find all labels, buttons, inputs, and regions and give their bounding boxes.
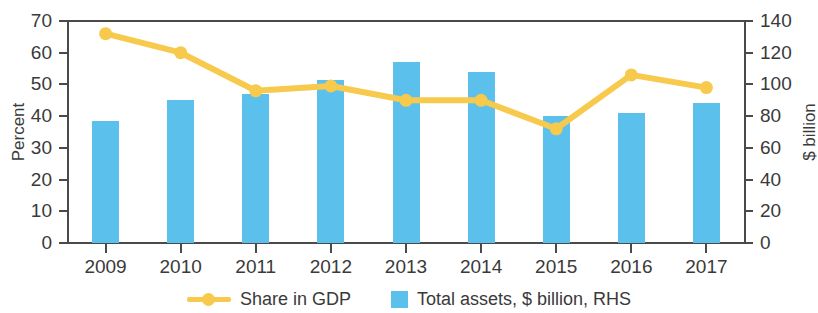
y-axis-right-tick-label: 120	[760, 43, 792, 62]
y-axis-right-tick-mark	[744, 52, 753, 54]
y-axis-right-tick-label: 140	[760, 11, 792, 30]
y-axis-left-tick-mark	[59, 83, 68, 85]
x-axis-tick-label: 2013	[371, 256, 441, 278]
line-marker-2010	[174, 46, 187, 59]
line-marker-2012	[324, 80, 337, 93]
y-axis-left-tick-mark	[59, 242, 68, 244]
y-axis-left-ticks: 706050403020100	[0, 0, 52, 313]
legend-item-share-in-gdp[interactable]: Share in GDP	[187, 289, 351, 310]
line-marker-2009	[99, 27, 112, 40]
y-axis-right-tick-label: 60	[760, 138, 781, 157]
x-axis-tick-label: 2016	[596, 256, 666, 278]
x-axis-tick-mark	[630, 244, 632, 253]
y-axis-left-tick-label: 30	[4, 138, 52, 157]
y-axis-left-tick-label: 50	[4, 74, 52, 93]
y-axis-right-tick-label: 80	[760, 106, 781, 125]
x-axis-tick-label: 2014	[446, 256, 516, 278]
x-axis-tick-label: 2012	[296, 256, 366, 278]
x-axis-tick-mark	[180, 244, 182, 253]
y-axis-right-tick-label: 20	[760, 201, 781, 220]
plot-area	[68, 21, 744, 243]
y-axis-right-tick-mark	[744, 147, 753, 149]
legend-label-share-in-gdp: Share in GDP	[240, 289, 351, 310]
y-axis-left-tick-label: 10	[4, 201, 52, 220]
line-series	[68, 21, 744, 243]
square-marker-icon	[391, 291, 408, 308]
x-axis-tick-label: 2009	[71, 256, 141, 278]
x-axis-tick-label: 2015	[521, 256, 591, 278]
x-axis-labels: 200920102011201220132014201520162017	[68, 256, 744, 282]
y-axis-left-tick-mark	[59, 179, 68, 181]
line-marker-2011	[249, 84, 262, 97]
y-axis-left-tick-mark	[59, 52, 68, 54]
y-axis-right-tick-label: 0	[760, 233, 771, 252]
line-marker-icon	[187, 291, 231, 307]
y-axis-right-ticks: 140120100806040200	[760, 0, 818, 313]
y-axis-left-tick-mark	[59, 210, 68, 212]
y-axis-left-tick-label: 20	[4, 170, 52, 189]
y-axis-left-tick-mark	[59, 20, 68, 22]
y-axis-left-tick-mark	[59, 147, 68, 149]
y-axis-right-tick-mark	[744, 115, 753, 117]
y-axis-right-tick-mark	[744, 83, 753, 85]
y-axis-right-tick-mark	[744, 20, 753, 22]
legend-item-total-assets[interactable]: Total assets, $ billion, RHS	[391, 289, 631, 310]
line-marker-2014	[475, 94, 488, 107]
y-axis-left-tick-label: 60	[4, 43, 52, 62]
line-marker-2013	[400, 94, 413, 107]
x-axis-tick-label: 2017	[671, 256, 741, 278]
x-axis-tick-label: 2011	[221, 256, 291, 278]
x-axis-tick-mark	[255, 244, 257, 253]
x-axis-tick-mark	[105, 244, 107, 253]
x-axis-tick-mark	[705, 244, 707, 253]
line-marker-2017	[700, 81, 713, 94]
y-axis-left-tick-label: 0	[4, 233, 52, 252]
chart-container: Percent $ billion 706050403020100 140120…	[0, 0, 818, 313]
y-axis-left-tick-mark	[59, 115, 68, 117]
line-marker-2015	[550, 122, 563, 135]
legend-label-total-assets: Total assets, $ billion, RHS	[417, 289, 631, 310]
x-axis-tick-mark	[480, 244, 482, 253]
y-axis-left-tick-label: 70	[4, 11, 52, 30]
y-axis-right-tick-label: 100	[760, 74, 792, 93]
chart-legend: Share in GDP Total assets, $ billion, RH…	[0, 286, 818, 312]
x-axis-tick-mark	[555, 244, 557, 253]
x-axis-tick-mark	[330, 244, 332, 253]
x-axis-tick-mark	[405, 244, 407, 253]
y-axis-right-tick-mark	[744, 179, 753, 181]
line-marker-2016	[625, 68, 638, 81]
line-path-share-in-gdp	[106, 34, 707, 129]
y-axis-left-tick-label: 40	[4, 106, 52, 125]
y-axis-right-tick-label: 40	[760, 170, 781, 189]
x-axis-tick-label: 2010	[146, 256, 216, 278]
y-axis-right-tick-mark	[744, 242, 753, 244]
y-axis-right-tick-mark	[744, 210, 753, 212]
